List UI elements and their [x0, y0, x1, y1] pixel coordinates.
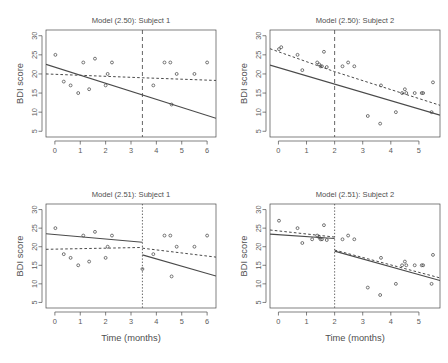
- x-axis: 012345: [276, 141, 421, 155]
- data-point: [152, 253, 155, 256]
- data-point: [94, 57, 97, 60]
- x-tick-label: 2: [104, 317, 108, 326]
- x-tick-label: 3: [129, 146, 133, 155]
- x-axis: 012345: [276, 312, 421, 326]
- x-tick-label: 1: [304, 146, 308, 155]
- data-point: [163, 61, 166, 64]
- data-point: [280, 46, 283, 49]
- data-point: [62, 80, 65, 83]
- data-point: [206, 234, 209, 237]
- x-tick-label: 0: [53, 317, 57, 326]
- x-axis-label: Time (months): [101, 333, 161, 343]
- y-axis-label: BDI score: [15, 236, 25, 277]
- data-point: [296, 227, 299, 230]
- data-point: [432, 81, 435, 84]
- y-axis-label: BDI score: [239, 236, 249, 277]
- data-point: [106, 72, 109, 75]
- y-tick-label: 30: [31, 32, 40, 40]
- data-point: [77, 264, 80, 267]
- data-point: [323, 224, 326, 227]
- data-point: [62, 253, 65, 256]
- y-tick-label: 15: [31, 261, 40, 269]
- data-point: [347, 61, 350, 64]
- data-point: [413, 264, 416, 267]
- data-point: [163, 234, 166, 237]
- data-point: [152, 84, 155, 87]
- x-tick-label: 0: [276, 317, 280, 326]
- data-layer: [46, 204, 216, 308]
- data-point: [430, 282, 433, 285]
- plot-panel-tl: Model (2.50): Subject 101234565101520253…: [0, 0, 224, 181]
- data-point: [69, 84, 72, 87]
- data-point: [394, 282, 397, 285]
- y-tick-label: 5: [255, 300, 264, 304]
- data-point: [405, 92, 408, 95]
- x-tick-label: 0: [53, 146, 57, 155]
- fit-line-1: [46, 74, 216, 80]
- x-tick-label: 6: [205, 317, 209, 326]
- data-point: [104, 84, 107, 87]
- y-tick-label: 5: [31, 129, 40, 133]
- y-tick-label: 20: [255, 243, 264, 251]
- plot-panel-br: Model (2.51): Subject 201234551015202530…: [224, 182, 448, 363]
- x-tick-label: 3: [361, 317, 365, 326]
- data-point: [88, 260, 91, 263]
- panel-title: Model (2.51): Subject 2: [316, 190, 395, 199]
- y-tick-label: 10: [31, 108, 40, 116]
- x-tick-label: 1: [78, 317, 82, 326]
- panel-title: Model (2.51): Subject 1: [92, 190, 171, 199]
- y-tick-label: 10: [255, 280, 264, 288]
- data-point: [347, 234, 350, 237]
- x-tick-label: 5: [180, 146, 184, 155]
- data-point: [394, 111, 397, 114]
- y-tick-label: 25: [255, 224, 264, 232]
- panel-model-250-subject-1: Model (2.50): Subject 101234565101520253…: [0, 0, 224, 181]
- x-tick-label: 3: [129, 317, 133, 326]
- data-point: [175, 245, 178, 248]
- fit-line-0: [46, 234, 142, 243]
- data-point: [341, 238, 344, 241]
- data-layer: [270, 30, 440, 137]
- data-point: [106, 245, 109, 248]
- data-point: [175, 72, 178, 75]
- data-point: [403, 88, 406, 91]
- data-point: [88, 88, 91, 91]
- y-tick-label: 30: [255, 32, 264, 40]
- data-layer: [46, 30, 216, 137]
- fit-line-1: [142, 255, 216, 276]
- panel-grid: Model (2.50): Subject 101234565101520253…: [0, 0, 448, 363]
- x-tick-label: 1: [78, 146, 82, 155]
- x-axis: 0123456: [53, 141, 209, 155]
- y-axis: 51015202530: [31, 32, 43, 134]
- x-tick-label: 6: [205, 146, 209, 155]
- y-tick-label: 15: [31, 89, 40, 97]
- data-layer: [270, 204, 440, 308]
- x-tick-label: 2: [333, 317, 337, 326]
- data-point: [301, 69, 304, 72]
- x-tick-label: 1: [304, 317, 308, 326]
- x-tick-label: 2: [333, 146, 337, 155]
- figure-canvas: Model (2.50): Subject 101234565101520253…: [0, 0, 448, 363]
- y-tick-label: 30: [31, 205, 40, 213]
- data-point: [77, 92, 80, 95]
- x-tick-label: 0: [276, 146, 280, 155]
- data-point: [296, 53, 299, 56]
- x-axis-label: Time (months): [325, 333, 385, 343]
- data-point: [341, 65, 344, 68]
- fit-line-1: [270, 49, 440, 106]
- y-tick-label: 15: [255, 89, 264, 97]
- x-tick-label: 5: [417, 317, 421, 326]
- y-axis: 51015202530: [255, 32, 267, 134]
- data-point: [169, 234, 172, 237]
- plot-frame: [270, 30, 440, 137]
- data-point: [170, 275, 173, 278]
- y-tick-label: 25: [31, 224, 40, 232]
- data-point: [366, 115, 369, 118]
- panel-title: Model (2.50): Subject 1: [92, 16, 171, 25]
- y-tick-label: 25: [31, 51, 40, 59]
- y-tick-label: 15: [255, 261, 264, 269]
- data-point: [54, 53, 57, 56]
- data-point: [366, 286, 369, 289]
- data-point: [353, 65, 356, 68]
- y-axis-label: BDI score: [239, 63, 249, 104]
